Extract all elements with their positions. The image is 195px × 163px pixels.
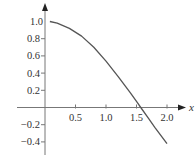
y-tick-label: −0.2 (21, 119, 40, 130)
x-axis-arrow-icon (178, 105, 186, 111)
data-line (50, 22, 167, 144)
x-tick-label: 1.0 (99, 112, 112, 123)
y-tick-label: 0.2 (27, 85, 40, 96)
x-axis-label: x (188, 101, 194, 113)
x-tick-label: 2.0 (160, 112, 173, 123)
y-tick-label: 1.0 (30, 16, 43, 27)
y-tick-label: −0.4 (21, 136, 41, 147)
y-tick-label: 0.8 (27, 33, 40, 44)
x-tick-label: 0.5 (69, 112, 82, 123)
axes: x (17, 3, 194, 155)
y-tick-label: 0.4 (27, 68, 41, 79)
y-axis-arrow-icon (42, 3, 48, 11)
series (50, 22, 167, 144)
y-tick-label: 0.6 (27, 50, 40, 61)
x-tick-label: 1.5 (130, 112, 143, 123)
cosine-line-chart: x 0.51.01.52.01.00.80.60.40.2−0.2−0.4 (0, 0, 195, 163)
ticks: 0.51.01.52.01.00.80.60.40.2−0.2−0.4 (21, 16, 174, 147)
